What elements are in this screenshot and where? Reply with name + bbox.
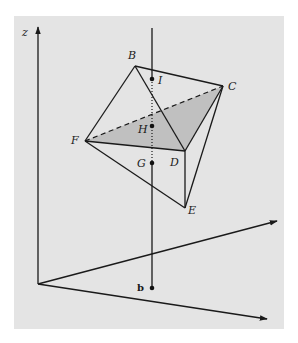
label-e-vertex: E bbox=[187, 204, 196, 217]
figure-background-panel bbox=[14, 16, 284, 329]
label-b-point: b bbox=[137, 282, 144, 293]
label-d-vertex: D bbox=[169, 156, 179, 169]
label-f-vertex: F bbox=[70, 134, 79, 147]
geometry-figure: z B C F D E I H G b bbox=[0, 0, 298, 343]
z-axis-label: z bbox=[21, 26, 28, 39]
point-h bbox=[150, 124, 155, 129]
label-h-point: H bbox=[137, 123, 148, 136]
point-g bbox=[150, 161, 155, 166]
label-i-point: I bbox=[157, 74, 163, 87]
label-b-vertex: B bbox=[127, 49, 136, 62]
label-c-vertex: C bbox=[228, 80, 237, 93]
label-g-point: G bbox=[137, 157, 146, 170]
point-b bbox=[150, 286, 155, 291]
point-i bbox=[150, 77, 155, 82]
